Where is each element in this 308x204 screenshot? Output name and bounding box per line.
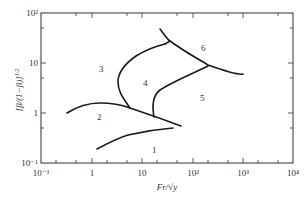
boundary-3-4-junction — [165, 41, 170, 44]
x-axis-title: Fr/√y — [156, 182, 177, 192]
region-label-6: 6 — [201, 43, 206, 53]
y-tick-label: 10⁻¹ — [21, 158, 38, 168]
region-label-2: 2 — [97, 112, 102, 122]
x-tick-label: 10⁴ — [287, 168, 299, 178]
x-tick-label: 10² — [187, 168, 199, 178]
region-labels: 1 2 3 4 5 6 — [97, 43, 206, 155]
x-tick-label: 10⁻¹ — [33, 168, 50, 178]
y-tick-label: 10² — [26, 8, 38, 18]
x-tick-label: 1 — [90, 168, 95, 178]
y-tick-label: 1 — [34, 108, 39, 118]
boundary-1-curve — [97, 128, 173, 149]
boundary-4-5-curve — [153, 66, 208, 117]
region-label-3: 3 — [99, 64, 104, 74]
boundary-3-4-curve — [118, 44, 165, 108]
x-ticks — [56, 13, 278, 163]
region-label-4: 4 — [143, 78, 148, 88]
x-tick-label: 10³ — [237, 168, 249, 178]
y-axis-title: [β/(1−β)]1/2 — [14, 69, 24, 112]
flow-regime-chart: 10⁻¹ 1 10 10² 10³ 10⁴ 10² 10 1 10⁻¹ Fr/√… — [0, 0, 308, 204]
boundary-2-curve — [67, 103, 181, 126]
x-tick-labels: 10⁻¹ 1 10 10² 10³ 10⁴ — [33, 168, 299, 178]
y-tick-label: 10 — [29, 58, 39, 68]
plot-frame — [41, 13, 293, 163]
boundary-curves — [67, 29, 243, 149]
region-label-1: 1 — [152, 145, 157, 155]
x-tick-label: 10 — [138, 168, 148, 178]
region-label-5: 5 — [200, 93, 205, 103]
